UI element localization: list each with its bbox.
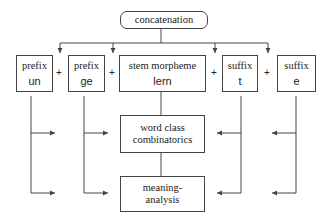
- component-morph: e: [293, 74, 299, 88]
- plus-sign: +: [209, 67, 219, 78]
- suffix-t-node: suffix t: [222, 55, 258, 92]
- component-morph: ge: [80, 74, 92, 88]
- prefix-ge-node: prefix ge: [68, 55, 105, 92]
- meaning-analysis-node: meaning- analysis: [120, 176, 205, 212]
- plus-sign: +: [262, 67, 272, 78]
- component-type: prefix: [74, 60, 99, 72]
- stage-label-line2: combinatorics: [133, 134, 192, 146]
- prefix-un-node: prefix un: [16, 55, 53, 92]
- stage-label-line1: word class: [140, 122, 185, 134]
- plus-sign: +: [107, 67, 117, 78]
- component-type: suffix: [284, 60, 308, 72]
- component-morph: t: [238, 74, 241, 88]
- component-type: suffix: [228, 60, 252, 72]
- component-type: stem morpheme: [129, 60, 196, 72]
- concatenation-label: concatenation: [135, 14, 193, 26]
- stem-morpheme-node: stem morpheme lern: [119, 55, 206, 92]
- concatenation-node: concatenation: [120, 11, 208, 29]
- suffix-e-node: suffix e: [277, 55, 316, 92]
- stage-label-line2: analysis: [146, 194, 180, 206]
- word-class-combinatorics-node: word class combinatorics: [120, 115, 205, 153]
- plus-sign: +: [54, 67, 64, 78]
- stage-label-line1: meaning-: [143, 182, 183, 194]
- component-morph: lern: [153, 74, 171, 88]
- component-morph: un: [28, 74, 40, 88]
- component-type: prefix: [22, 60, 47, 72]
